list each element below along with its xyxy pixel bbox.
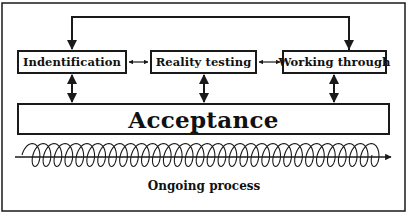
stage-box-identification: Indentification <box>17 50 127 74</box>
ongoing-process-label: Ongoing process <box>0 179 408 193</box>
feedback-loop-arrow <box>72 17 349 50</box>
stage-box-working-through: Working through <box>282 50 387 74</box>
spiral-coil <box>22 144 379 167</box>
ongoing-process-spiral <box>15 144 391 167</box>
stage-box-reality-testing: Reality testing <box>150 50 257 74</box>
grief-process-diagram: Indentification Reality testing Working … <box>0 0 408 215</box>
acceptance-box: Acceptance <box>17 103 390 135</box>
